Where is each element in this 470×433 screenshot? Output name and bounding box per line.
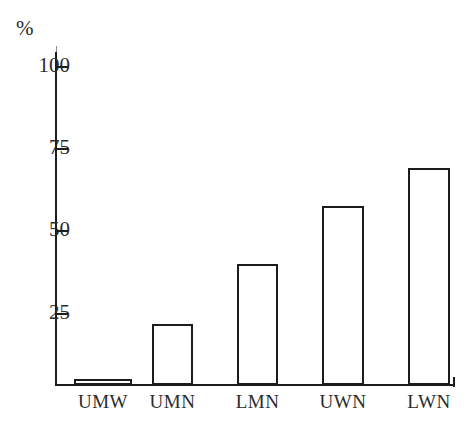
x-label-umw: UMW [68, 392, 138, 413]
y-tick-mark [57, 230, 68, 232]
bar-lmn [237, 264, 278, 385]
plot-area: 100755025 UMWUMNLMNUWNLWN [0, 0, 470, 433]
bar-umn [152, 324, 193, 385]
x-label-umn: UMN [138, 392, 208, 413]
bar-umw [74, 379, 132, 385]
x-label-uwn: UWN [308, 392, 378, 413]
bar-uwn [322, 206, 364, 385]
x-axis-end-tick [453, 377, 455, 387]
y-tick-mark [57, 66, 68, 68]
bar-chart-figure: % 100755025 UMWUMNLMNUWNLWN [0, 0, 470, 433]
x-label-lmn: LMN [223, 392, 293, 413]
y-tick-mark [57, 313, 68, 315]
y-tick-mark [57, 148, 68, 150]
x-label-lwn: LWN [394, 392, 464, 413]
bar-lwn [408, 168, 450, 385]
